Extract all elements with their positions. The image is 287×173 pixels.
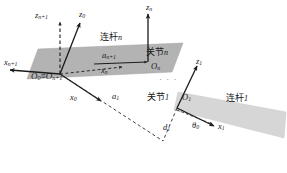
axis-label-z-1: z1 bbox=[196, 57, 202, 67]
origin-label-o-1: O1 bbox=[182, 93, 191, 103]
diagram-svg bbox=[0, 0, 287, 173]
axis-label-x-n-plus-1: xn+1 bbox=[4, 58, 17, 68]
dimension-a-1 bbox=[60, 74, 163, 141]
origin-label-o-n: On bbox=[151, 62, 160, 72]
ellipsis-between-links: · · · bbox=[159, 75, 178, 84]
axis-label-z-n-plus-1: zn+1 bbox=[35, 11, 48, 21]
axis-label-z-0: z0 bbox=[79, 10, 85, 20]
link-n-label: 连杆n bbox=[100, 33, 122, 42]
joint-1-label: 关节1 bbox=[147, 93, 169, 102]
axis-label-x-0: x0 bbox=[70, 93, 77, 103]
joint-n-label: 关节n bbox=[146, 48, 168, 57]
dimension-label-a-1: a1 bbox=[112, 92, 119, 102]
origin-label-o0-equals-on1: O0≡On+1 bbox=[31, 72, 62, 81]
link-1-label: 连杆1 bbox=[226, 94, 248, 103]
axis-label-z-n: zn bbox=[146, 3, 152, 13]
dimension-label-d-1: d1 bbox=[163, 123, 170, 133]
axis-label-x-1: x1 bbox=[218, 122, 225, 132]
dimension-label-theta-0: θ0 bbox=[192, 121, 199, 131]
dimension-label-a-n-plus-1: an+1 bbox=[102, 51, 116, 61]
figure-canvas: zn+1 z0 zn xn+1 xn x0 z1 x1 an+1 a1 d1 θ… bbox=[0, 0, 287, 173]
axis-label-x-n: xn bbox=[101, 66, 108, 76]
